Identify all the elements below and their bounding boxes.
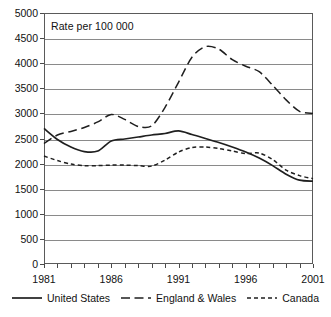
y-tick-mark [40,239,44,240]
x-tick-mark [246,264,247,268]
gridline [45,89,312,90]
plot-area [44,13,313,264]
y-tick-mark [40,189,44,190]
x-tick-mark [300,264,301,268]
y-tick-mark [40,113,44,114]
y-tick-label: 500 [0,234,38,245]
y-tick-label: 1500 [0,184,38,195]
x-tick-mark [192,264,193,268]
x-tick-mark [232,264,233,268]
legend-line-swatch [247,294,277,302]
legend-line-swatch [121,294,151,302]
x-tick-mark [125,264,126,268]
chart-title: Rate per 100 000 [51,20,134,32]
gridline [45,190,312,191]
legend-entry[interactable]: Canada [247,292,319,304]
legend-label: Canada [282,292,319,304]
x-tick-mark [219,264,220,268]
y-tick-label: 0 [0,259,38,270]
legend-label: United States [47,292,110,304]
x-tick-mark [165,264,166,268]
x-tick-mark [259,264,260,268]
gridline [45,64,312,65]
gridline [45,114,312,115]
y-tick-label: 1000 [0,209,38,220]
y-tick-mark [40,13,44,14]
x-tick-mark [286,264,287,268]
y-tick-label: 4500 [0,33,38,44]
gridline [45,165,312,166]
y-tick-mark [40,38,44,39]
x-tick-mark [111,264,112,268]
y-tick-mark [40,164,44,165]
x-tick-mark [179,264,180,268]
legend-entry[interactable]: United States [12,292,110,304]
chart-legend: United StatesEngland & WalesCanada [0,292,331,304]
x-tick-label: 2001 [301,274,324,285]
x-tick-label: 1996 [234,274,257,285]
legend-label: England & Wales [156,292,236,304]
y-tick-label: 5000 [0,8,38,19]
y-tick-mark [40,88,44,89]
y-tick-label: 3000 [0,108,38,119]
x-tick-mark [152,264,153,268]
x-tick-mark [205,264,206,268]
x-tick-label: 1991 [167,274,190,285]
x-tick-mark [98,264,99,268]
gridline [45,215,312,216]
x-tick-label: 1986 [100,274,123,285]
x-tick-mark [138,264,139,268]
y-tick-mark [40,139,44,140]
x-tick-mark [44,264,45,268]
gridline [45,39,312,40]
gridline [45,240,312,241]
x-tick-label: 1981 [32,274,55,285]
x-tick-mark [84,264,85,268]
legend-line-swatch [12,294,42,302]
line-chart: Rate per 100 000 50004500400035003000250… [0,0,331,317]
x-tick-mark [273,264,274,268]
legend-entry[interactable]: England & Wales [121,292,236,304]
gridline [45,140,312,141]
y-tick-label: 3500 [0,83,38,94]
x-tick-mark [57,264,58,268]
y-tick-label: 2000 [0,159,38,170]
y-tick-mark [40,63,44,64]
y-tick-label: 4000 [0,58,38,69]
x-tick-mark [71,264,72,268]
x-tick-mark [313,264,314,268]
y-tick-mark [40,214,44,215]
y-tick-label: 2500 [0,134,38,145]
